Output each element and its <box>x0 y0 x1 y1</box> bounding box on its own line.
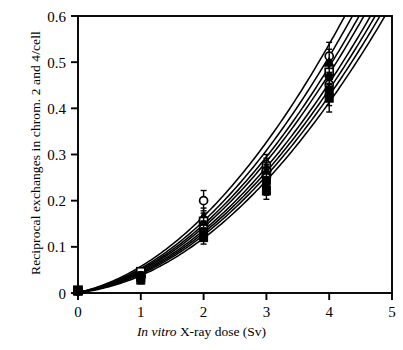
data-point-filled-square <box>325 94 333 102</box>
series-donor-1 <box>74 42 333 294</box>
y-tick-label: 0.5 <box>47 55 66 71</box>
x-tick-label: 2 <box>200 304 208 320</box>
y-tick-label: 0.4 <box>47 101 66 117</box>
x-tick-label: 1 <box>137 304 145 320</box>
dose-response-curve <box>78 0 392 292</box>
x-tick-label: 3 <box>263 304 271 320</box>
dose-response-curve <box>78 0 392 293</box>
figure-panel: 01234500.10.20.30.40.50.6 Reciprocal exc… <box>0 0 403 350</box>
y-axis-title-text: Reciprocal exchanges in chrom. 2 and 4/c… <box>28 31 43 275</box>
dose-response-curve <box>78 0 392 293</box>
y-tick-label: 0.1 <box>47 239 66 255</box>
dose-response-curve <box>78 0 392 293</box>
data-point-filled-square <box>137 276 145 284</box>
dose-response-curve <box>78 0 392 293</box>
data-point-filled-square <box>262 187 270 195</box>
data-point-markers <box>73 42 334 295</box>
x-axis-title: In vitro X-ray dose (Sv) <box>0 322 403 340</box>
x-tick-label: 5 <box>388 304 396 320</box>
chart-plot-area: 01234500.10.20.30.40.50.6 <box>0 0 403 350</box>
y-tick-label: 0.3 <box>47 147 66 163</box>
x-axis-title-rest: X-ray dose (Sv) <box>177 324 267 339</box>
data-point-filled-square <box>200 234 208 242</box>
dose-response-curve <box>78 0 392 293</box>
dose-response-curves <box>78 0 392 293</box>
y-tick-label: 0.2 <box>47 193 66 209</box>
x-axis-title-italic: In vitro <box>137 324 177 339</box>
series-donor-8 <box>74 84 333 295</box>
x-tick-label: 4 <box>325 304 333 320</box>
series-donor-4 <box>74 65 333 295</box>
y-axis-title: Reciprocal exchanges in chrom. 2 and 4/c… <box>26 13 46 293</box>
series-donor-7 <box>74 83 333 294</box>
series-donor-3 <box>74 60 333 294</box>
data-point-open-circle <box>200 197 208 205</box>
series-donor-2 <box>73 49 334 294</box>
dose-response-curve <box>78 0 392 293</box>
x-tick-label: 0 <box>74 304 82 320</box>
y-tick-label: 0.6 <box>47 9 66 25</box>
axis-tick-labels: 01234500.10.20.30.40.50.6 <box>47 9 396 321</box>
y-tick-label: 0 <box>59 286 67 302</box>
x-axis-title-text: In vitro X-ray dose (Sv) <box>137 324 266 339</box>
axis-ticks <box>71 16 392 300</box>
series-donor-5 <box>74 72 333 295</box>
